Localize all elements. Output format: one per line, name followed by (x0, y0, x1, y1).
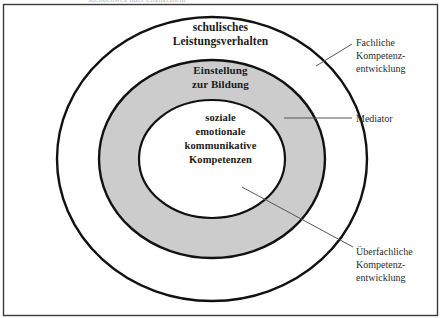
callout-mediator-line-1: Mediator (356, 112, 393, 125)
callout-ueberfachliche-line-3: entwicklung (356, 271, 413, 284)
callout-ueberfachliche-line-2: Kompetenz- (356, 258, 413, 271)
callout-ueberfachliche-line-1: Überfachliche (356, 245, 413, 258)
outer-ring-label-line-1: schulisches (0, 20, 441, 34)
inner-core-label-line-4: Kompetenzen (0, 153, 441, 167)
inner-core-label-line-2: emotionale (0, 125, 441, 139)
callout-fachliche-line-1: Fachliche (356, 36, 405, 49)
callout-mediator: Mediator (356, 112, 393, 125)
middle-ring-label-line-2: zur Bildung (0, 78, 441, 92)
figure-container: spendenweg oder Engagement schulisches L… (0, 0, 441, 318)
callout-ueberfachliche-kompetenzentwicklung: Überfachliche Kompetenz- entwicklung (356, 245, 413, 285)
callout-fachliche-line-2: Kompetenz- (356, 49, 405, 62)
callout-fachliche-kompetenzentwicklung: Fachliche Kompetenz- entwicklung (356, 36, 405, 76)
callout-fachliche-line-3: entwicklung (356, 62, 405, 75)
inner-core-label-line-3: kommunikative (0, 139, 441, 153)
